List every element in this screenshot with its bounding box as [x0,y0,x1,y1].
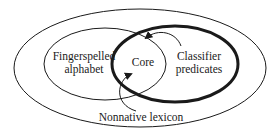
nonnative-label: Nonnative lexicon [99,111,184,123]
lexicon-diagram: Fingerspelled alphabet Core Classifier p… [0,0,280,136]
core-label: Core [132,56,154,68]
fingerspelled-label-line1: Fingerspelled [53,50,116,63]
arrow-classifier-to-core [146,32,181,46]
classifier-label-line2: predicates [176,63,223,76]
outer-ellipse [14,9,266,127]
classifier-label-line1: Classifier [177,50,221,62]
fingerspelled-label-line2: alphabet [65,63,105,76]
